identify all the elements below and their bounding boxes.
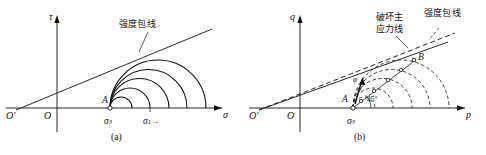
y-axis-label: q xyxy=(290,12,295,22)
panel-a: τ σ O' O 强度包线 A σ3 σ1→ (a) xyxy=(0,0,243,155)
x-axis-arrow xyxy=(214,105,222,110)
point-b-marker xyxy=(412,58,416,62)
point-a-marker xyxy=(351,106,355,110)
origin-prime-label: O' xyxy=(6,111,15,121)
envelope-label-leader xyxy=(429,28,439,40)
angle-phi-label: φ xyxy=(353,76,357,84)
apex-point-4 xyxy=(399,68,402,71)
point-a-label: A xyxy=(102,96,108,106)
point-b-label: B xyxy=(418,53,424,63)
mohr-circle-5 xyxy=(110,60,206,108)
strength-envelope-label: 强度包线 xyxy=(424,9,461,18)
point-a-label: A xyxy=(342,95,348,105)
apex-point-2 xyxy=(372,89,375,92)
panel-b: q p O' O 破坏主 应力线 强度包线 A B φ 45° σ3 (b) xyxy=(243,0,486,155)
x-axis-label: σ xyxy=(223,110,228,120)
apex-point-1 xyxy=(359,99,362,102)
y-axis-arrow xyxy=(54,15,59,23)
point-a-marker xyxy=(108,106,112,110)
mohr-circle-4 xyxy=(353,70,430,109)
sigma1-arrow: → xyxy=(151,117,159,126)
x-axis-label: p xyxy=(466,110,471,120)
origin-label: O xyxy=(44,111,51,121)
panel-b-caption: (b) xyxy=(354,133,365,143)
mohr-circle-1 xyxy=(110,97,132,108)
failure-line-label-leader xyxy=(396,36,408,48)
y-axis-arrow xyxy=(297,15,302,23)
sigma3-subscript: 3 xyxy=(109,118,112,125)
figure-root: τ σ O' O 强度包线 A σ3 σ1→ (a) xyxy=(0,0,486,155)
strength-envelope-label: 强度包线 xyxy=(119,20,156,29)
x-axis-arrow xyxy=(457,105,465,110)
origin-prime-label: O' xyxy=(249,111,258,121)
envelope-label-leader xyxy=(139,32,148,52)
strength-envelope-line xyxy=(16,29,212,110)
origin-label: O xyxy=(287,111,294,121)
sigma3-subscript: 3 xyxy=(352,118,355,125)
failure-line-label-line2: 应力线 xyxy=(376,25,404,34)
failure-line-label-line1: 破坏主 xyxy=(376,13,404,22)
mohr-circle-4 xyxy=(110,70,187,109)
angle-45-label: 45° xyxy=(367,96,378,104)
panel-a-caption: (a) xyxy=(111,133,122,143)
y-axis-label: τ xyxy=(49,12,53,22)
apex-point-3 xyxy=(386,78,389,81)
